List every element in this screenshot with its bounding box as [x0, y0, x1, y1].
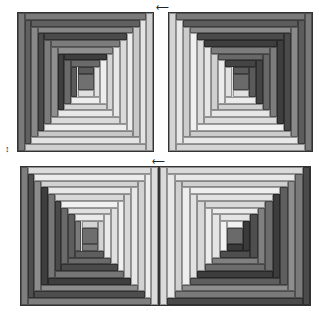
- strip-left: [167, 174, 174, 298]
- block-center: [82, 228, 98, 244]
- strip-top: [225, 60, 255, 67]
- strip-bottom: [78, 90, 94, 97]
- strip-bottom: [68, 258, 111, 265]
- strip-bottom: [41, 285, 138, 292]
- quilt-block-bottom-left: [20, 166, 159, 306]
- strip-left: [175, 181, 182, 292]
- strip-right: [295, 174, 302, 298]
- strip-top: [218, 54, 262, 61]
- strip-right: [145, 174, 152, 298]
- strip-top: [205, 201, 266, 208]
- strip-top: [64, 54, 106, 61]
- strip-left: [48, 194, 55, 278]
- strip-right: [291, 27, 298, 138]
- strip-left: [212, 214, 219, 257]
- strip-right: [243, 221, 250, 251]
- strip-right: [263, 54, 270, 111]
- middle-rotation-arrow-icon: ⟵: [152, 157, 165, 166]
- strip-right: [127, 33, 134, 130]
- strip-top: [48, 187, 131, 194]
- strip-right: [249, 67, 256, 97]
- strip-right: [133, 27, 140, 138]
- strip-left: [38, 33, 45, 130]
- strip-top: [71, 60, 100, 67]
- strip-right: [146, 13, 153, 151]
- strip-left: [197, 40, 204, 124]
- strip-right: [273, 194, 280, 278]
- strip-top: [197, 33, 284, 40]
- strip-left: [220, 221, 227, 251]
- strip-bottom: [64, 104, 106, 111]
- strip-right: [100, 60, 107, 103]
- strip-right: [288, 181, 295, 292]
- strip-left: [176, 20, 183, 144]
- strip-right: [277, 40, 284, 124]
- strip-top: [75, 214, 104, 221]
- strip-bottom: [38, 131, 133, 138]
- strip-bottom: [175, 291, 295, 298]
- strip-top: [34, 174, 144, 181]
- strip-right: [118, 201, 125, 271]
- quilt-block-top-right: [168, 12, 313, 152]
- strip-bottom: [197, 271, 273, 278]
- strip-right: [94, 67, 101, 97]
- strip-right: [124, 194, 131, 278]
- strip-left: [160, 167, 167, 305]
- strip-bottom: [44, 124, 126, 131]
- strip-top: [190, 27, 291, 34]
- strip-left: [18, 13, 25, 151]
- strip-bottom: [55, 271, 125, 278]
- strip-left: [55, 201, 62, 271]
- strip-left: [204, 47, 211, 117]
- strip-bottom: [212, 258, 258, 265]
- strip-left: [169, 13, 176, 151]
- strip-top: [220, 214, 251, 221]
- strip-top: [28, 167, 152, 174]
- strip-bottom: [182, 285, 287, 292]
- strip-bottom: [58, 110, 114, 117]
- strip-left: [28, 174, 35, 298]
- strip-right: [265, 201, 272, 271]
- strip-top: [211, 47, 269, 54]
- strip-bottom: [220, 251, 251, 258]
- strip-right: [305, 13, 312, 151]
- strip-left: [190, 33, 197, 130]
- strip-bottom: [205, 264, 266, 271]
- strip-left: [190, 194, 197, 278]
- strip-bottom: [48, 278, 131, 285]
- strip-top: [55, 194, 125, 201]
- strip-top: [41, 181, 138, 188]
- strip-bottom: [25, 144, 147, 151]
- strip-right: [280, 187, 287, 284]
- strip-left: [34, 181, 41, 292]
- strip-top: [78, 67, 94, 74]
- strip-left: [225, 67, 232, 97]
- strip-right: [111, 208, 118, 265]
- strip-bottom: [218, 104, 262, 111]
- strip-right: [258, 208, 265, 265]
- strip-right: [104, 214, 111, 257]
- strip-left: [211, 54, 218, 111]
- strip-right: [250, 214, 257, 257]
- strip-left: [61, 208, 68, 265]
- strip-top: [197, 194, 273, 201]
- strip-bottom: [204, 117, 276, 124]
- strip-left: [218, 60, 225, 103]
- strip-top: [176, 13, 305, 20]
- strip-top: [51, 40, 120, 47]
- strip-left: [197, 201, 204, 271]
- block-center: [227, 228, 243, 244]
- strip-left: [31, 27, 38, 138]
- strip-right: [151, 167, 158, 305]
- strip-right: [140, 20, 147, 144]
- strip-bottom: [75, 251, 104, 258]
- strip-bottom: [51, 117, 120, 124]
- strip-left: [21, 167, 28, 305]
- strip-right: [107, 54, 114, 111]
- strip-right: [298, 20, 305, 144]
- strip-right: [98, 221, 105, 251]
- left-rotation-arrow-icon: ↕: [5, 145, 10, 154]
- strip-left: [182, 187, 189, 284]
- strip-bottom: [28, 298, 152, 305]
- strip-left: [183, 27, 190, 138]
